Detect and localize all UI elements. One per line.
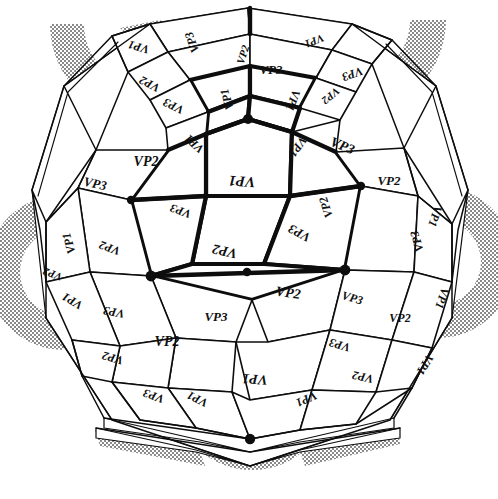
face-label-vp3: VP3	[204, 309, 228, 324]
vertex-marker-v-mid-left	[127, 196, 135, 204]
vertex-marker-v-mid-right	[357, 182, 365, 190]
figure-canvas: VP1VP3VP2VP2VP1VP3VP3VP2VP1VP3VP1VP1VP1V…	[0, 0, 498, 499]
vertex-marker-v-mid-low	[243, 268, 251, 276]
face-label-vp1: VP1	[228, 173, 256, 191]
face-label-vp3: VP3	[259, 62, 283, 77]
vertex-marker-v-right	[340, 265, 351, 276]
vertex-marker-v-top	[243, 114, 253, 124]
polyhedron-diagram: VP1VP3VP2VP2VP1VP3VP3VP2VP1VP3VP1VP1VP1V…	[0, 0, 498, 499]
face-label-vp2: VP2	[134, 154, 159, 169]
vertex-marker-v-left	[146, 271, 157, 282]
vertex-marker-v-bottom	[245, 434, 255, 444]
face-label-vp2: VP2	[377, 173, 401, 188]
face-label-vp1: VP1	[242, 371, 268, 388]
face-label-vp2: VP2	[389, 311, 410, 325]
face-label-vp2: VP2	[155, 334, 180, 349]
